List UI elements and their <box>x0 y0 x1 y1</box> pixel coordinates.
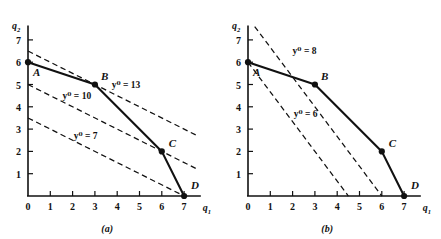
iso-6-line <box>248 62 348 196</box>
x-tick-label: 0 <box>246 201 251 212</box>
y-tick-label: 5 <box>236 80 241 91</box>
iso-8-line <box>255 27 382 196</box>
panel-caption: (b) <box>321 223 333 235</box>
y-tick-label: 6 <box>16 57 21 68</box>
x-tick-label: 7 <box>402 201 407 212</box>
iso-10-line <box>28 85 197 170</box>
y-tick-label: 1 <box>16 169 21 180</box>
y-tick-label: 3 <box>16 124 21 135</box>
isoquant-frontier <box>248 62 404 196</box>
chart-a: 012345671234567q2q1y⁰ = 7y⁰ = 10y⁰ = 13A… <box>0 0 220 239</box>
vertex-dot-C <box>159 148 165 154</box>
y-tick-label: 1 <box>236 169 241 180</box>
iso-8-label: y⁰ = 8 <box>293 46 317 56</box>
panel-caption: (a) <box>101 223 113 235</box>
vertex-label-C: C <box>169 137 177 149</box>
x-axis-label: q1 <box>203 202 211 215</box>
y-tick-label: 6 <box>236 57 241 68</box>
x-tick-label: 4 <box>335 201 340 212</box>
figure-isoquant-diagrams: 012345671234567q2q1y⁰ = 7y⁰ = 10y⁰ = 13A… <box>0 0 441 239</box>
y-tick-label: 4 <box>236 102 241 113</box>
iso-10-label: y⁰ = 10 <box>63 91 92 101</box>
y-tick-label: 2 <box>16 146 21 157</box>
vertex-dot-B <box>312 81 318 87</box>
vertex-label-C: C <box>389 137 397 149</box>
y-tick-label: 5 <box>16 80 21 91</box>
vertex-label-A: A <box>32 66 40 78</box>
y-axis-label: q2 <box>232 20 241 32</box>
y-tick-label: 2 <box>236 146 241 157</box>
x-tick-label: 0 <box>26 201 31 212</box>
x-tick-label: 2 <box>290 201 295 212</box>
iso-6-label: y⁰ = 6 <box>294 109 318 119</box>
vertex-label-D: D <box>410 179 419 191</box>
x-tick-label: 3 <box>92 201 97 212</box>
vertex-label-A: A <box>252 66 260 78</box>
x-tick-label: 5 <box>357 201 362 212</box>
y-tick-label: 7 <box>16 35 21 46</box>
panel-b: 012345671234567q2q1y⁰ = 6y⁰ = 8ABCD(b) <box>220 0 440 239</box>
iso-13-line <box>28 51 197 136</box>
x-tick-label: 2 <box>70 201 75 212</box>
x-tick-label: 6 <box>159 201 164 212</box>
x-tick-label: 3 <box>312 201 317 212</box>
y-axis-label: q2 <box>12 20 21 32</box>
chart-b: 012345671234567q2q1y⁰ = 6y⁰ = 8ABCD(b) <box>220 0 440 239</box>
panel-a: 012345671234567q2q1y⁰ = 7y⁰ = 10y⁰ = 13A… <box>0 0 220 239</box>
x-tick-label: 1 <box>268 201 273 212</box>
vertex-label-D: D <box>190 179 199 191</box>
x-tick-label: 6 <box>379 201 384 212</box>
iso-7-line <box>28 118 184 196</box>
iso-13-label: y⁰ = 13 <box>112 80 141 90</box>
isoquant-frontier <box>28 62 184 196</box>
x-tick-label: 5 <box>137 201 142 212</box>
x-tick-label: 1 <box>48 201 53 212</box>
y-tick-label: 7 <box>236 35 241 46</box>
x-tick-label: 4 <box>115 201 120 212</box>
vertex-dot-C <box>379 148 385 154</box>
x-tick-label: 7 <box>182 201 187 212</box>
iso-7-label: y⁰ = 7 <box>74 131 98 141</box>
y-tick-label: 4 <box>16 102 21 113</box>
x-axis-label: q1 <box>423 202 431 215</box>
y-tick-label: 3 <box>236 124 241 135</box>
vertex-label-B: B <box>100 70 108 82</box>
vertex-label-B: B <box>320 70 328 82</box>
